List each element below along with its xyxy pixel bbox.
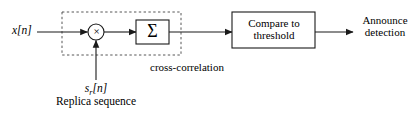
cross-correlation-label: cross-correlation (150, 61, 224, 73)
compare-block-label: Compare to threshold (233, 17, 315, 42)
announce-detection-label: Announce detection (356, 14, 414, 39)
announce-detection-line2: detection (365, 26, 405, 38)
replica-sequence-caption: Replica sequence (33, 95, 159, 108)
compare-block-label-line2: threshold (254, 29, 295, 41)
multiplier-symbol: × (88, 25, 105, 37)
summation-symbol: Σ (136, 21, 169, 41)
announce-detection-line1: Announce (362, 14, 407, 26)
compare-block-label-line1: Compare to (248, 17, 300, 29)
signal-flow-diagram: x[n] × Σ Compare to threshold cross-corr… (0, 0, 415, 113)
input-signal-label: x[n] (12, 24, 32, 37)
replica-symbol-index: [n] (93, 82, 108, 94)
